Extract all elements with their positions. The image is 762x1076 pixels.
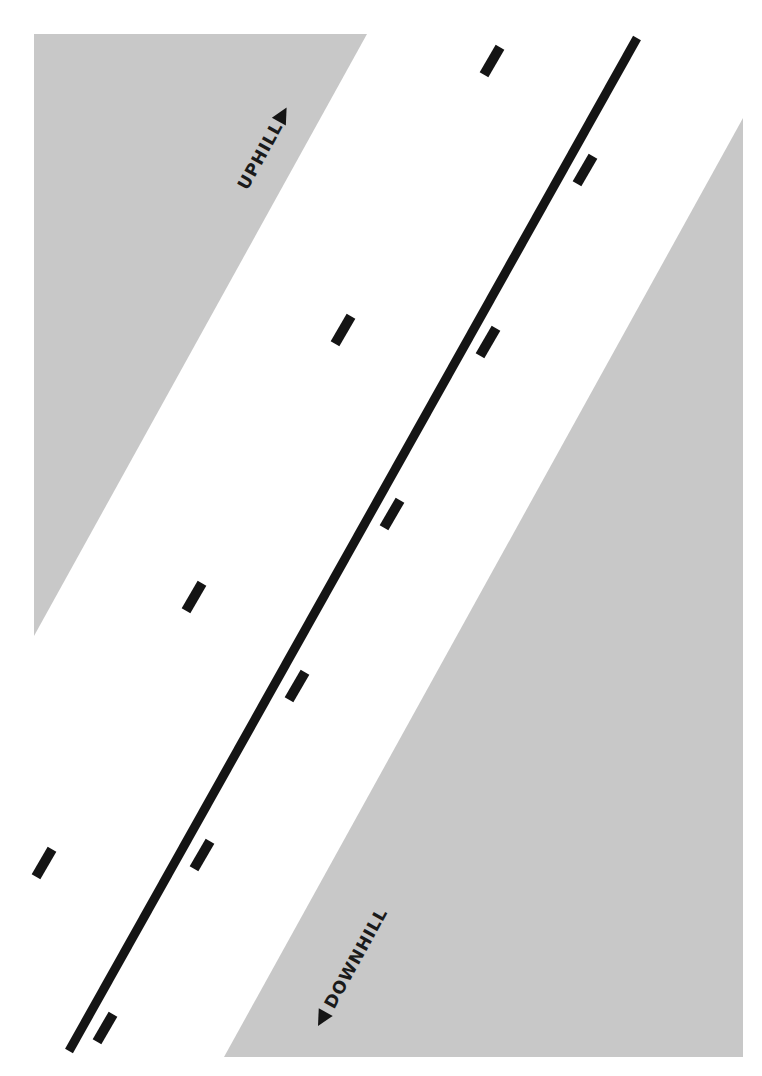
downhill-gray-region bbox=[224, 118, 743, 1057]
slope-diagram: UPHILL DOWNHILL bbox=[0, 0, 762, 1076]
uphill-gray-region bbox=[34, 34, 367, 636]
